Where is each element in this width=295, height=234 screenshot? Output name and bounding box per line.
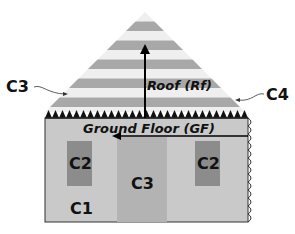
c2-left-label: C2 (69, 154, 92, 173)
roof-stripe (40, 31, 250, 41)
roof-stripe (40, 12, 250, 22)
c2-right-label: C2 (197, 154, 220, 173)
c3-leader-line (34, 86, 66, 94)
c1-label: C1 (70, 199, 93, 218)
c3-left-label: C3 (6, 77, 29, 96)
ground-floor-label: Ground Floor (GF) (83, 121, 215, 136)
c3-center-label: C3 (131, 174, 154, 193)
roof-stripe (40, 22, 250, 32)
c4-leader-line (238, 94, 264, 101)
house-diagram: Roof (Rf) Ground Floor (GF) C3 C4 C2 C2 … (0, 0, 295, 234)
c4-label: C4 (266, 85, 289, 104)
roof-label: Roof (Rf) (147, 78, 212, 93)
